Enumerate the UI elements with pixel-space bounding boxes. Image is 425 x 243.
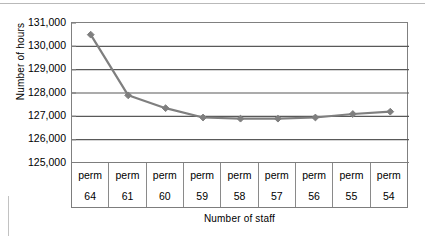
y-tick-label: 131,000 (14, 17, 66, 27)
x-category-value-label: 55 (346, 190, 358, 202)
y-tick-label: 126,000 (14, 133, 66, 143)
scan-left-rule (8, 196, 9, 236)
x-axis-category-cell: perm60 (147, 163, 184, 207)
x-category-type-label: perm (153, 169, 177, 181)
y-tick-label: 130,000 (14, 40, 66, 50)
line-chart-svg (72, 23, 409, 163)
x-category-type-label: perm (116, 169, 140, 181)
y-tick-label: 128,000 (14, 87, 66, 97)
x-category-type-label: perm (265, 169, 289, 181)
x-category-type-label: perm (190, 169, 214, 181)
data-point-marker (200, 114, 207, 121)
x-category-value-label: 60 (159, 190, 171, 202)
x-axis-title: Number of staff (71, 213, 408, 224)
x-category-value-label: 61 (122, 190, 134, 202)
x-category-type-label: perm (339, 169, 363, 181)
x-category-type-label: perm (377, 169, 401, 181)
x-axis-category-cell: perm58 (221, 163, 258, 207)
x-category-value-label: 54 (383, 190, 395, 202)
x-category-value-label: 64 (84, 190, 96, 202)
x-axis-category-cell: perm54 (371, 163, 407, 207)
x-axis-category-cell: perm59 (184, 163, 221, 207)
y-tick-label: 129,000 (14, 63, 66, 73)
x-category-value-label: 58 (234, 190, 246, 202)
x-axis-category-cell: perm56 (296, 163, 333, 207)
plot-area (71, 22, 408, 162)
chart-figure: Number of hours 131,000 130,000 129,000 … (0, 0, 425, 243)
x-category-type-label: perm (78, 169, 102, 181)
series-markers (87, 31, 393, 122)
series-line-number-of-hours (91, 35, 391, 119)
x-axis-category-cell: perm55 (333, 163, 370, 207)
x-axis-tick-marks (72, 23, 76, 163)
x-axis-category-cell: perm64 (72, 163, 109, 207)
x-axis-category-cell: perm61 (109, 163, 146, 207)
y-tick-label: 125,000 (14, 157, 66, 167)
y-axis-tick-labels: 131,000 130,000 129,000 128,000 127,000 … (14, 0, 66, 243)
data-point-marker (162, 105, 169, 112)
x-category-value-label: 57 (271, 190, 283, 202)
x-category-type-label: perm (228, 169, 252, 181)
x-category-type-label: perm (302, 169, 326, 181)
y-tick-label: 127,000 (14, 110, 66, 120)
x-axis-category-table: perm64perm61perm60perm59perm58perm57perm… (71, 162, 408, 208)
gridlines (72, 46, 409, 163)
x-category-value-label: 59 (196, 190, 208, 202)
x-category-value-label: 56 (308, 190, 320, 202)
x-axis-category-cell: perm57 (259, 163, 296, 207)
data-point-marker (312, 114, 319, 121)
data-point-marker (387, 108, 394, 115)
